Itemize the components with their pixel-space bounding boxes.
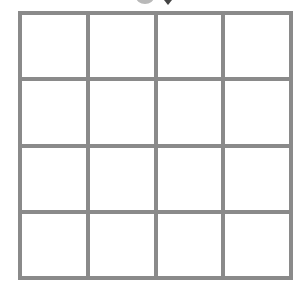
- board-cell[interactable]: [90, 214, 154, 276]
- board-cell[interactable]: [158, 15, 222, 77]
- board-cell[interactable]: [90, 81, 154, 143]
- board-cell[interactable]: [158, 148, 222, 210]
- board-cell[interactable]: [90, 148, 154, 210]
- board-cell[interactable]: [225, 15, 289, 77]
- game-board: [18, 11, 293, 280]
- arrow-down-icon: [164, 0, 172, 5]
- board-cell[interactable]: [158, 214, 222, 276]
- board-cell[interactable]: [22, 148, 86, 210]
- board-cell[interactable]: [22, 81, 86, 143]
- board-cell[interactable]: [90, 15, 154, 77]
- board-cell[interactable]: [225, 81, 289, 143]
- board-cell[interactable]: [22, 15, 86, 77]
- circle-icon: [136, 0, 154, 4]
- board-cell[interactable]: [225, 214, 289, 276]
- board-cell[interactable]: [158, 81, 222, 143]
- board-cell[interactable]: [225, 148, 289, 210]
- board-cell[interactable]: [22, 214, 86, 276]
